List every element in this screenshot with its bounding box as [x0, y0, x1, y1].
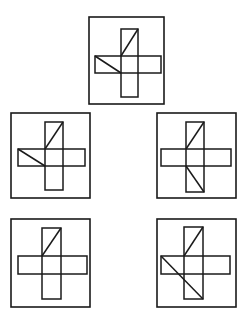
horizontal-arm [18, 149, 85, 166]
left-arm-diagonal [18, 149, 45, 166]
cross-diagram-icon [10, 218, 92, 310]
cross-diagram-icon [88, 16, 166, 106]
cross-diagram-icon [10, 112, 92, 200]
option-b[interactable]: Option B [156, 112, 238, 200]
cross-diagram-icon [156, 218, 238, 310]
frame [11, 219, 90, 307]
cross-diagram-icon [156, 112, 238, 200]
top-arm-diagonal [121, 29, 138, 56]
top-arm-diagonal [42, 228, 61, 256]
frame [11, 113, 90, 198]
option-a[interactable]: Option A [10, 112, 92, 200]
frame [157, 113, 236, 198]
vertical-arm [45, 122, 63, 190]
option-d[interactable]: Option D [156, 218, 238, 310]
vertical-arm [42, 228, 61, 299]
option-c[interactable]: Option C [10, 218, 92, 310]
left-to-bottom-diagonal [161, 256, 203, 299]
left-arm-diagonal [95, 56, 121, 73]
frame [89, 17, 164, 104]
top-arm-diagonal [45, 122, 63, 149]
vertical-arm [121, 29, 138, 97]
top-arm-diagonal [186, 122, 204, 149]
top-arm-diagonal [184, 227, 203, 256]
vertical-arm [186, 122, 204, 192]
horizontal-arm [18, 256, 87, 274]
bottom-arm-diagonal [186, 166, 204, 192]
horizontal-arm [161, 149, 231, 166]
question-figure: Question figure [88, 16, 166, 106]
horizontal-arm [161, 256, 230, 274]
horizontal-arm [95, 56, 161, 73]
vertical-arm [184, 227, 203, 299]
